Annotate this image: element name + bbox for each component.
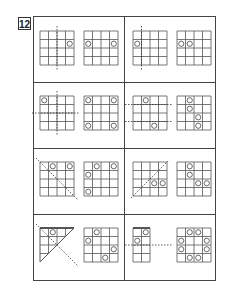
punched-hole-icon [160, 181, 165, 186]
punched-hole-icon [67, 164, 72, 169]
punched-hole-icon [111, 164, 116, 169]
fold-figure-r4c2 [133, 228, 167, 262]
fold-figure-r2c2 [133, 96, 167, 130]
punched-hole-icon [86, 123, 91, 128]
fold-figure-r1c2 [133, 31, 167, 65]
punched-hole-icon [187, 164, 192, 169]
punched-hole-icon [143, 230, 148, 235]
punched-hole-icon [86, 189, 91, 194]
row-divider [33, 148, 216, 149]
punched-hole-icon [143, 98, 148, 103]
answer-grid-r3c2 [177, 162, 211, 196]
punched-hole-icon [111, 41, 116, 46]
punched-hole-icon [196, 181, 201, 186]
answer-grid-r1c2 [177, 31, 211, 65]
punched-hole-icon [135, 238, 140, 243]
punched-hole-icon [111, 123, 116, 128]
fold-figure-r3c1 [40, 162, 74, 196]
punched-hole-icon [196, 230, 201, 235]
row-divider [33, 214, 216, 215]
fold-figure-r3c2 [133, 162, 167, 196]
punched-hole-icon [187, 41, 192, 46]
punched-hole-icon [103, 255, 108, 260]
punched-hole-icon [86, 172, 91, 177]
answer-grid-r3c1 [84, 162, 118, 196]
punched-hole-icon [187, 255, 192, 260]
fold-figure-r2c1 [40, 96, 74, 130]
fold-figure-r4c1 [40, 228, 74, 262]
punched-hole-icon [50, 230, 55, 235]
punched-hole-icon [42, 98, 47, 103]
punched-hole-icon [135, 41, 140, 46]
punched-hole-icon [86, 41, 91, 46]
punched-hole-icon [204, 247, 209, 252]
punched-hole-icon [50, 164, 55, 169]
punched-hole-icon [179, 238, 184, 243]
problem-number: 12 [18, 17, 31, 30]
answer-grid-r2c2 [177, 96, 211, 130]
answer-grid-r4c2 [177, 228, 211, 262]
punched-hole-icon [86, 238, 91, 243]
punched-hole-icon [67, 41, 72, 46]
punched-hole-icon [94, 164, 99, 169]
punched-hole-icon [152, 181, 157, 186]
answer-grid-r4c1 [84, 228, 118, 262]
fold-figure-r1c1 [40, 31, 74, 65]
punched-hole-icon [94, 230, 99, 235]
answer-grid-r2c1 [84, 96, 118, 130]
punched-hole-icon [196, 115, 201, 120]
punched-hole-icon [111, 98, 116, 103]
punched-hole-icon [179, 41, 184, 46]
punched-hole-icon [187, 106, 192, 111]
punched-hole-icon [152, 123, 157, 128]
punched-hole-icon [196, 123, 201, 128]
answer-grid-r1c1 [84, 31, 118, 65]
punched-hole-icon [196, 255, 201, 260]
punched-hole-icon [187, 98, 192, 103]
punched-hole-icon [111, 247, 116, 252]
punched-hole-icon [187, 172, 192, 177]
punched-hole-icon [179, 247, 184, 252]
punched-hole-icon [187, 230, 192, 235]
row-divider [33, 82, 216, 83]
punched-hole-icon [204, 238, 209, 243]
punched-hole-icon [204, 181, 209, 186]
punched-hole-icon [86, 98, 91, 103]
